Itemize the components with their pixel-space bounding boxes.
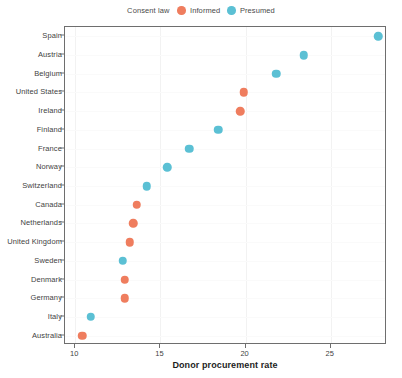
y-gridline	[65, 36, 385, 37]
y-gridline	[65, 130, 385, 131]
y-gridline	[65, 261, 385, 262]
y-gridline	[65, 167, 385, 168]
y-axis-tick	[60, 128, 64, 129]
y-gridline	[65, 280, 385, 281]
data-point[interactable]	[163, 163, 172, 172]
y-axis-tick	[60, 334, 64, 335]
y-gridline	[65, 186, 385, 187]
data-point[interactable]	[86, 313, 95, 322]
x-axis-title: Donor procurement rate	[64, 360, 386, 370]
y-axis-label: Switzerland	[22, 181, 62, 190]
y-axis-label: Austria	[38, 50, 62, 59]
y-axis-label: France	[38, 143, 62, 152]
y-axis-tick	[60, 185, 64, 186]
data-point[interactable]	[143, 182, 152, 191]
y-gridline	[65, 92, 385, 93]
chart-legend: Consent law Informed Presumed	[0, 6, 402, 15]
y-gridline	[65, 55, 385, 56]
data-point[interactable]	[78, 331, 87, 340]
y-axis-tick	[60, 278, 64, 279]
data-point[interactable]	[119, 257, 128, 266]
y-axis-tick	[60, 110, 64, 111]
y-axis-label: Sweden	[34, 255, 62, 264]
legend-entry-presumed[interactable]: Presumed	[227, 6, 274, 15]
legend-label-informed: Informed	[190, 6, 220, 15]
plot-area	[64, 26, 386, 344]
y-axis-tick	[60, 259, 64, 260]
x-axis-tick-label: 25	[326, 349, 334, 358]
data-point[interactable]	[185, 144, 194, 153]
y-axis-tick	[60, 297, 64, 298]
y-axis-label: Norway	[36, 162, 62, 171]
legend-label-presumed: Presumed	[240, 6, 275, 15]
y-axis-tick	[60, 166, 64, 167]
data-point[interactable]	[214, 126, 223, 135]
data-point[interactable]	[120, 294, 129, 303]
legend-entry-informed[interactable]: Informed	[177, 6, 220, 15]
y-gridline	[65, 336, 385, 337]
data-point[interactable]	[132, 200, 141, 209]
data-point[interactable]	[374, 32, 383, 41]
y-axis-tick	[60, 315, 64, 316]
y-axis-label: United States	[16, 87, 62, 96]
data-point[interactable]	[129, 219, 138, 228]
y-axis-tick	[60, 91, 64, 92]
x-axis-tick	[74, 344, 75, 348]
legend-title: Consent law	[127, 6, 169, 15]
y-gridline	[65, 242, 385, 243]
y-axis-label: Ireland	[38, 106, 62, 115]
data-point[interactable]	[120, 275, 129, 284]
y-axis-tick	[60, 222, 64, 223]
y-axis-tick	[60, 147, 64, 148]
grid-layer	[65, 27, 385, 343]
x-axis-tick	[159, 344, 160, 348]
y-gridline	[65, 149, 385, 150]
x-axis-tick-label: 20	[240, 349, 248, 358]
y-gridline	[65, 298, 385, 299]
data-point[interactable]	[240, 88, 249, 97]
y-axis-label: Germany	[30, 293, 62, 302]
donor-procurement-rate-chart: Consent law Informed Presumed SpainAustr…	[0, 0, 402, 378]
y-axis-label: Finland	[37, 124, 62, 133]
y-gridline	[65, 223, 385, 224]
y-axis-label: Netherlands	[20, 218, 62, 227]
y-axis-label: Denmark	[31, 274, 62, 283]
y-axis-label: Canada	[35, 199, 62, 208]
y-axis-label: United Kingdom	[7, 237, 62, 246]
data-point[interactable]	[272, 70, 281, 79]
x-axis-tick-label: 15	[155, 349, 163, 358]
y-gridline	[65, 111, 385, 112]
y-axis-tick	[60, 54, 64, 55]
x-axis-tick-label: 10	[70, 349, 78, 358]
y-axis-tick	[60, 72, 64, 73]
y-gridline	[65, 317, 385, 318]
legend-swatch-presumed	[227, 6, 236, 15]
data-point[interactable]	[236, 107, 245, 116]
y-axis-tick	[60, 203, 64, 204]
legend-swatch-informed	[177, 6, 186, 15]
data-point[interactable]	[125, 238, 134, 247]
y-gridline	[65, 205, 385, 206]
data-point[interactable]	[299, 51, 308, 60]
y-axis-label: Belgium	[34, 68, 62, 77]
y-axis-tick	[60, 35, 64, 36]
y-axis-tick	[60, 241, 64, 242]
x-axis-tick	[330, 344, 331, 348]
y-axis-label: Australia	[32, 330, 62, 339]
x-axis-tick	[245, 344, 246, 348]
y-gridline	[65, 74, 385, 75]
